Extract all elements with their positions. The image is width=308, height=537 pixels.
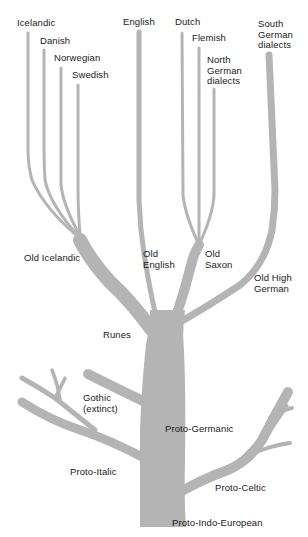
branch-north-german — [199, 89, 214, 245]
label-norwegian: Norwegian — [54, 53, 100, 64]
branch-proto-celtic — [180, 392, 288, 492]
label-proto-celtic: Proto-Celtic — [215, 483, 266, 494]
label-proto-germanic: Proto-Germanic — [165, 424, 233, 435]
branch-icelandic — [28, 33, 82, 240]
label-south-german-dialects: South German dialects — [258, 19, 293, 51]
label-runes: Runes — [103, 330, 131, 341]
label-old-high-german: Old High German — [254, 273, 292, 294]
branch-old-saxon — [175, 245, 199, 320]
label-old-icelandic: Old Icelandic — [24, 253, 80, 264]
label-flemish: Flemish — [192, 33, 226, 44]
label-proto-italic: Proto-Italic — [70, 467, 117, 478]
label-north-german-dialects: North German dialects — [207, 55, 242, 87]
label-swedish: Swedish — [72, 70, 109, 81]
branch-swedish — [78, 85, 80, 234]
branch-old-english — [139, 32, 155, 312]
label-english: English — [123, 17, 155, 28]
branch-old-icelandic — [80, 240, 152, 330]
label-proto-indo-european: Proto-Indo-European — [172, 518, 263, 529]
label-dutch: Dutch — [175, 17, 200, 28]
label-old-english: Old English — [143, 249, 175, 270]
label-gothic-extinct: Gothic (extinct) — [83, 393, 118, 414]
label-danish: Danish — [40, 36, 70, 47]
label-icelandic: Icelandic — [17, 18, 55, 29]
branch-dutch — [182, 33, 199, 245]
label-old-saxon: Old Saxon — [205, 249, 232, 270]
